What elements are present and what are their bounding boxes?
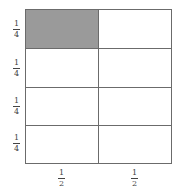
row-label-1: 14 [13,20,20,39]
numerator: 1 [14,134,19,142]
col-label-2: 12 [131,169,138,188]
denominator: 4 [14,145,19,153]
denominator: 2 [59,180,64,188]
row-label-2: 14 [13,59,20,78]
denominator: 4 [14,108,19,116]
shaded-cell [26,10,99,49]
denominator: 4 [14,70,19,78]
row-label-3: 14 [13,97,20,116]
col-label-1: 12 [58,169,65,188]
column-divider [98,10,99,163]
numerator: 1 [59,169,64,177]
numerator: 1 [132,169,137,177]
denominator: 4 [14,31,19,39]
numerator: 1 [14,59,19,67]
numerator: 1 [14,97,19,105]
fraction-grid [25,9,172,164]
denominator: 2 [132,180,137,188]
row-label-4: 14 [13,134,20,153]
numerator: 1 [14,20,19,28]
